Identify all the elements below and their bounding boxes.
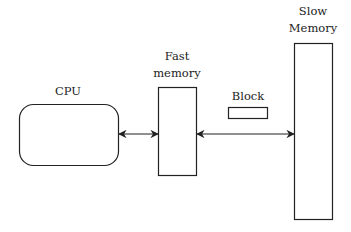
cpu-box	[20, 105, 119, 166]
fast-memory-label-line2: memory	[147, 65, 207, 82]
cpu-label: CPU	[48, 83, 88, 100]
slow-memory-label-line1: Slow	[288, 3, 338, 20]
slow-memory-box	[295, 44, 333, 220]
slow-memory-label-line2: Memory	[281, 20, 345, 37]
fast-memory-label-line1: Fast	[152, 48, 202, 65]
block-label: Block	[222, 88, 274, 105]
block-box	[229, 108, 268, 119]
fast-memory-box	[159, 88, 197, 176]
memory-hierarchy-diagram: CPU Fast memory Block Slow Memory	[0, 0, 351, 232]
